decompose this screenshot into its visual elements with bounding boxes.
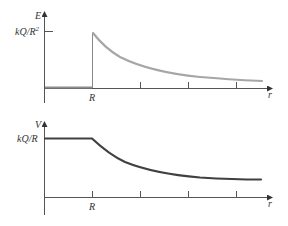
e-field-plot: E kQ/R2 R r: [15, 10, 272, 103]
v-y-tick-label: kQ/R: [17, 133, 38, 144]
v-y-label: V: [35, 119, 43, 130]
v-curve: [45, 139, 261, 180]
field-potential-diagram: E kQ/R2 R r V kQ/R R r: [0, 0, 288, 226]
v-x-label: r: [268, 198, 272, 209]
e-y-tick-label: kQ/R2: [15, 25, 40, 37]
v-x-tick-label-R: R: [88, 201, 95, 212]
e-x-label: r: [268, 89, 272, 100]
e-y-label: E: [34, 10, 41, 21]
e-decay-curve: [93, 33, 262, 81]
potential-plot: V kQ/R R r: [17, 119, 272, 215]
e-x-tick-label-R: R: [88, 92, 95, 103]
